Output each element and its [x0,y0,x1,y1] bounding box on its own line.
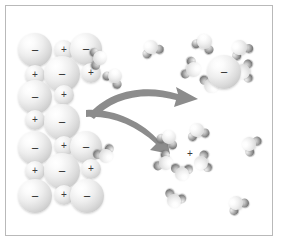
charge-sign: − [207,55,241,89]
water-molecule-right-upper [234,129,264,159]
lattice-cation: + [25,110,45,130]
charge-sign: + [25,110,45,130]
lattice-cation: + [25,161,45,181]
lattice-anion: − [18,179,52,213]
water-oxygen [175,167,189,181]
hydrated-anion: − [207,55,241,89]
water-molecule-lattice-edge [87,45,112,70]
charge-sign: − [18,179,52,213]
lattice-anion: − [70,179,104,213]
lattice-cation: + [54,85,74,105]
water-molecule-bottom-right [221,188,252,219]
hydration-shell-water [190,27,220,57]
hydration-shell-water [171,163,193,185]
charge-sign: + [179,143,201,165]
hydrated-cation: + [179,143,201,165]
water-molecule-bottom-mid [160,187,188,215]
charge-sign: + [54,85,74,105]
charge-sign: + [25,161,45,181]
dissolution-diagram: −+−+−+−++−−+−+−+−+− − + [0,0,286,245]
diagram-scene: −+−+−+−++−−+−+−+−+− − + [0,0,286,245]
water-molecule-top-center [136,32,165,61]
charge-sign: − [70,179,104,213]
